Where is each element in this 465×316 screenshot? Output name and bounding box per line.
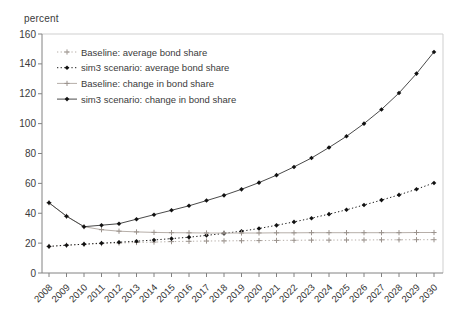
- x-tick-label: 2019: [224, 282, 247, 305]
- diamond-marker: [257, 180, 262, 185]
- diamond-marker: [414, 187, 419, 192]
- diamond-marker: [82, 224, 87, 229]
- x-tick-label: 2029: [399, 282, 422, 305]
- diamond-marker: [379, 198, 384, 203]
- plus-marker: [64, 49, 69, 54]
- x-tick-label: 2030: [417, 282, 440, 305]
- plus-marker: [344, 237, 349, 242]
- y-tick-label: 60: [25, 178, 37, 189]
- plus-marker: [239, 238, 244, 243]
- diamond-marker: [152, 212, 157, 217]
- x-tick-label: 2013: [119, 282, 142, 305]
- x-tick-label: 2015: [154, 282, 177, 305]
- plus-marker: [256, 230, 261, 235]
- plus-marker: [379, 237, 384, 242]
- plus-marker: [326, 238, 331, 243]
- legend-item-sim3-scenario-change-in-bond-share: sim3 scenario: change in bond share: [57, 94, 236, 105]
- diamond-marker: [204, 198, 209, 203]
- x-tick-label: 2026: [347, 282, 370, 305]
- x-tick-label: 2021: [259, 282, 282, 305]
- plus-marker: [396, 237, 401, 242]
- diamond-marker: [187, 235, 192, 240]
- diamond-marker: [47, 244, 52, 249]
- diamond-marker: [65, 97, 70, 102]
- legend-item-baseline-change-in-bond-share: Baseline: change in bond share: [57, 78, 214, 89]
- plus-marker: [414, 230, 419, 235]
- diamond-marker: [432, 181, 437, 186]
- legend-label: sim3 scenario: average bond share: [81, 62, 229, 73]
- plus-marker: [414, 237, 419, 242]
- legend-label: Baseline: average bond share: [81, 47, 207, 58]
- x-tick-label: 2024: [312, 282, 335, 305]
- y-tick-label: 80: [25, 148, 37, 159]
- x-tick-label: 2014: [137, 282, 160, 305]
- diamond-marker: [274, 173, 279, 178]
- x-tick-label: 2008: [32, 282, 55, 305]
- plus-marker: [99, 227, 104, 232]
- plus-marker: [361, 237, 366, 242]
- x-tick-label: 2012: [102, 282, 125, 305]
- x-tick-label: 2016: [172, 282, 195, 305]
- bond-share-chart: percent 02040608010012014016020082009201…: [0, 0, 465, 316]
- plus-marker: [431, 230, 436, 235]
- x-tick-label: 2010: [67, 282, 90, 305]
- plus-marker: [396, 230, 401, 235]
- plus-marker: [151, 230, 156, 235]
- plus-marker: [291, 230, 296, 235]
- diamond-marker: [99, 223, 104, 228]
- diamond-marker: [257, 226, 262, 231]
- y-tick-label: 160: [19, 29, 36, 40]
- plus-marker: [204, 230, 209, 235]
- diamond-marker: [327, 212, 332, 217]
- diamond-marker: [362, 203, 367, 208]
- plus-marker: [186, 230, 191, 235]
- plus-marker: [274, 230, 279, 235]
- legend-label: Baseline: change in bond share: [81, 78, 214, 89]
- diamond-marker: [239, 187, 244, 192]
- diamond-marker: [292, 165, 297, 170]
- legend-label: sim3 scenario: change in bond share: [81, 94, 236, 105]
- plus-marker: [221, 238, 226, 243]
- diamond-marker: [82, 242, 87, 247]
- plus-marker: [169, 230, 174, 235]
- plus-marker: [326, 230, 331, 235]
- series-sim3-scenario-change-in-bond-share: [47, 50, 437, 229]
- x-tick-label: 2011: [85, 282, 107, 304]
- series-line: [49, 183, 434, 247]
- chart-canvas: 0204060801001201401602008200920102011201…: [0, 0, 465, 316]
- plus-marker: [309, 238, 314, 243]
- x-tick-label: 2017: [189, 282, 212, 305]
- diamond-marker: [117, 240, 122, 245]
- plus-marker: [134, 229, 139, 234]
- plus-marker: [221, 230, 226, 235]
- plus-marker: [204, 238, 209, 243]
- diamond-marker: [64, 243, 69, 248]
- x-tick-label: 2027: [364, 282, 387, 305]
- y-tick-label: 20: [25, 238, 37, 249]
- series-line: [49, 203, 434, 233]
- x-tick-label: 2018: [207, 282, 230, 305]
- diamond-marker: [117, 221, 122, 226]
- x-tick-label: 2028: [382, 282, 405, 305]
- diamond-marker: [309, 216, 314, 221]
- series-baseline-average-bond-share: [46, 237, 436, 249]
- legend-item-baseline-average-bond-share: Baseline: average bond share: [57, 47, 207, 58]
- x-tick-label: 2020: [242, 282, 265, 305]
- legend: Baseline: average bond sharesim3 scenari…: [57, 47, 236, 105]
- diamond-marker: [65, 65, 70, 70]
- diamond-marker: [274, 223, 279, 228]
- x-tick-label: 2023: [294, 282, 317, 305]
- plus-marker: [291, 238, 296, 243]
- diamond-marker: [222, 193, 227, 198]
- plus-marker: [116, 229, 121, 234]
- diamond-marker: [397, 193, 402, 198]
- diamond-marker: [99, 241, 104, 246]
- plus-marker: [309, 230, 314, 235]
- plus-marker: [344, 230, 349, 235]
- y-tick-label: 0: [30, 268, 36, 279]
- plus-marker: [274, 238, 279, 243]
- legend-item-sim3-scenario-average-bond-share: sim3 scenario: average bond share: [57, 62, 229, 73]
- plus-marker: [256, 238, 261, 243]
- plus-marker: [361, 230, 366, 235]
- y-tick-label: 100: [19, 118, 36, 129]
